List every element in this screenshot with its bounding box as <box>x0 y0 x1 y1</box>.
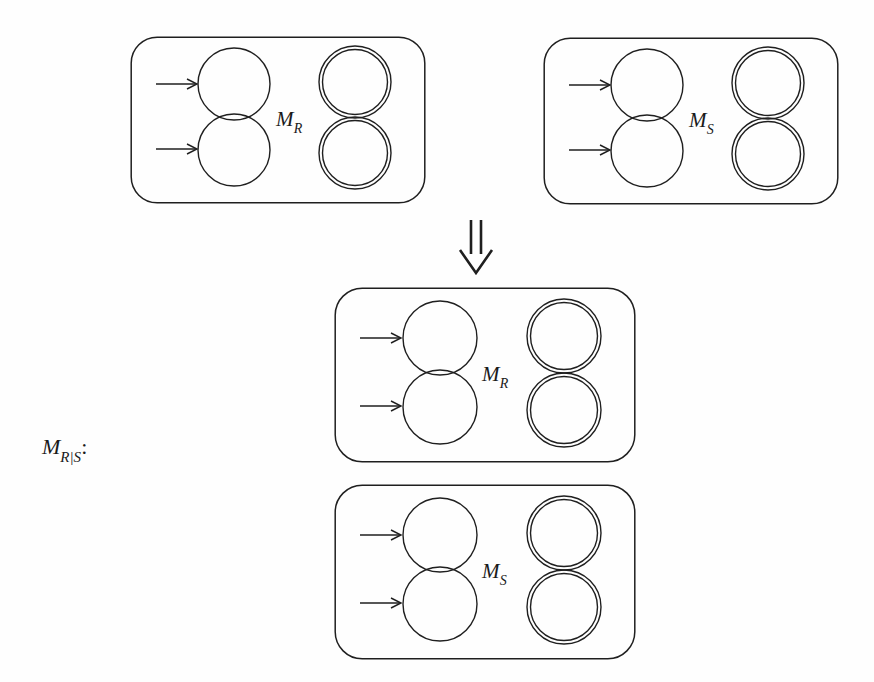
machine-label-base: M <box>689 108 707 132</box>
accepting-state-circle-1 <box>319 46 391 118</box>
input-state-circle-2 <box>403 370 477 444</box>
machine-label-subscript: S <box>707 122 714 137</box>
machine-label-base: M <box>482 559 500 583</box>
input-state-circle-1 <box>403 498 477 572</box>
accepting-state-circle-1 <box>527 496 601 570</box>
figure-canvas: MR MS <box>0 0 874 682</box>
conditional-machine-label: MR|S: <box>42 434 87 463</box>
input-state-circle-1 <box>403 301 477 375</box>
input-arrow-1 <box>156 79 197 89</box>
machine-label-bottom-lower: MS <box>482 559 507 587</box>
input-state-circle-2 <box>611 115 683 187</box>
machine-box-top-left: MR <box>130 36 426 204</box>
accepting-state-circle-2 <box>527 570 601 644</box>
machine-box-bottom-lower: MS <box>334 484 636 660</box>
conditional-label-colon: : <box>81 434 87 459</box>
conditional-label-subscript: R|S <box>60 449 81 465</box>
machine-label-bottom-upper: MR <box>482 362 508 390</box>
input-state-circle-1 <box>611 49 683 121</box>
accepting-state-circle-2 <box>732 118 804 190</box>
input-arrow-2 <box>569 145 610 155</box>
machine-box-bottom-upper: MR <box>334 287 636 463</box>
conditional-label-base: M <box>42 434 60 459</box>
machine-box-top-right: MS <box>543 37 839 205</box>
machine-label-subscript: S <box>500 573 507 588</box>
machine-label-subscript: R <box>500 376 509 391</box>
input-state-circle-2 <box>198 114 270 186</box>
machine-label-top-left: MR <box>276 107 302 135</box>
machine-label-top-right: MS <box>689 108 714 136</box>
machine-label-subscript: R <box>294 121 303 136</box>
accepting-state-circle-2 <box>319 117 391 189</box>
double-down-arrow-icon <box>452 218 502 280</box>
input-arrow-2 <box>360 401 401 411</box>
input-state-circle-1 <box>198 48 270 120</box>
input-arrow-1 <box>569 80 610 90</box>
machine-label-base: M <box>276 107 294 131</box>
input-arrow-1 <box>360 333 401 343</box>
input-arrow-1 <box>360 530 401 540</box>
input-arrow-2 <box>360 598 401 608</box>
machine-label-base: M <box>482 362 500 386</box>
accepting-state-circle-2 <box>527 373 601 447</box>
accepting-state-circle-1 <box>527 299 601 373</box>
accepting-state-circle-1 <box>732 47 804 119</box>
input-arrow-2 <box>156 144 197 154</box>
input-state-circle-2 <box>403 567 477 641</box>
